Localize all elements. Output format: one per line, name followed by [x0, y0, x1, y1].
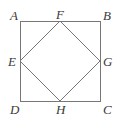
geometry-figure: A B C D E F G H [0, 0, 117, 124]
vertex-label-d: D [10, 103, 19, 116]
vertex-label-f: F [56, 8, 64, 21]
inner-square-EFGH [20, 21, 100, 101]
vertex-label-g: G [103, 55, 112, 68]
vertex-label-e: E [8, 55, 16, 68]
vertex-label-h: H [56, 103, 65, 116]
vertex-label-a: A [10, 9, 18, 22]
vertex-label-c: C [103, 103, 112, 116]
outer-square-ABCD [20, 21, 100, 101]
vertex-label-b: B [103, 9, 111, 22]
